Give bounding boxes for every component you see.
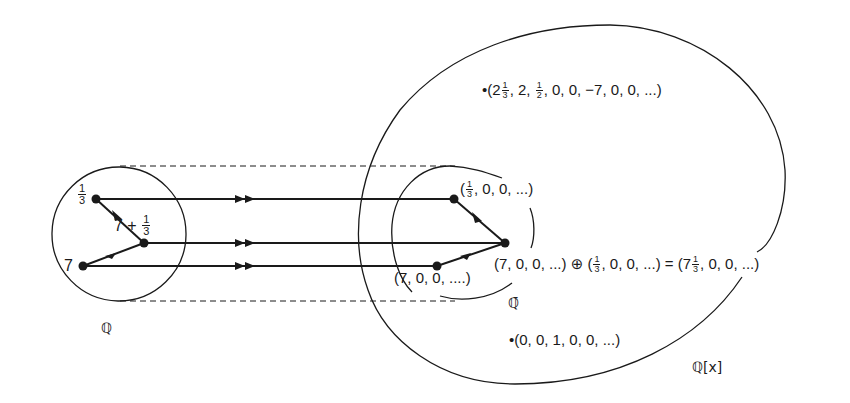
label-one-third-seq: (13, 0, 0, ...) [460, 181, 533, 200]
label-sum-equation: (7, 0, 0, ...) ⊕ (13, 0, 0, ...) = (713,… [494, 256, 759, 275]
point-seven-plus-third [140, 239, 149, 248]
label-one-third: 13 [77, 184, 87, 207]
label-seq-b: •(0, 0, 1, 0, 0, ...) [509, 332, 620, 347]
label-set-q: ℚ [101, 321, 112, 335]
double-arrow-icons [235, 195, 255, 270]
point-seven [79, 262, 88, 271]
diagram-canvas [0, 0, 850, 403]
point-one-third [92, 195, 101, 204]
label-seven: 7 [64, 258, 73, 274]
point-one-third-seq [450, 195, 459, 204]
label-seq-a: •(213, 2, 12, 0, 0, −7, 0, 0, ...) [482, 82, 662, 101]
label-seven-seq: (7, 0, 0, ....) [394, 270, 471, 285]
label-set-q-x: ℚ[x] [692, 360, 722, 374]
point-sum-seq [501, 239, 510, 248]
label-seven-plus-third: 7 + 13 [114, 215, 151, 238]
label-set-q-bar: ℚ̄ [508, 296, 519, 310]
